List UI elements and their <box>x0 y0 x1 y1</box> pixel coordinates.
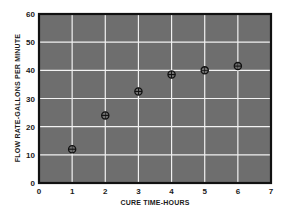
data-point-marker <box>135 88 142 95</box>
x-tick-label: 6 <box>236 187 241 196</box>
x-tick-label: 1 <box>70 187 75 196</box>
data-point-marker <box>201 67 208 74</box>
data-point-marker <box>168 71 175 78</box>
y-tick-label: 10 <box>26 151 35 160</box>
y-tick-label: 40 <box>26 66 35 75</box>
x-tick-label: 5 <box>202 187 207 196</box>
x-tick-label: 7 <box>269 187 274 196</box>
y-tick-label: 20 <box>26 123 35 132</box>
x-tick-label: 0 <box>37 187 42 196</box>
y-tick-label: 60 <box>26 10 35 19</box>
y-tick-label: 50 <box>26 38 35 47</box>
x-tick-label: 4 <box>169 187 174 196</box>
y-axis-label: FLOW RATE-GALLONS PER MINUTE <box>14 34 21 162</box>
y-tick-label: 30 <box>26 95 35 104</box>
x-axis-ticks: 01234567 <box>37 187 274 196</box>
x-tick-label: 3 <box>136 187 141 196</box>
data-point-marker <box>234 63 241 70</box>
x-tick-label: 2 <box>103 187 108 196</box>
data-point-marker <box>102 112 109 119</box>
x-axis-label: CURE TIME-HOURS <box>120 199 189 206</box>
data-point-marker <box>69 146 76 153</box>
y-tick-label: 0 <box>31 179 36 188</box>
y-axis-ticks: 0102030405060 <box>26 10 35 188</box>
scatter-chart: 0102030405060 01234567 CURE TIME-HOURS F… <box>0 0 286 215</box>
